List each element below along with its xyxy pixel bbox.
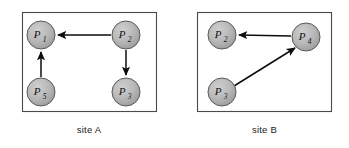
- node-circle: [292, 23, 320, 51]
- node-label: P: [118, 85, 126, 97]
- node-circle: [27, 21, 55, 49]
- edge-p4-to-p2: [239, 35, 291, 36]
- node-label: P: [214, 85, 222, 97]
- node-circle: [208, 21, 236, 49]
- node-circle: [112, 21, 140, 49]
- node-subscript: 1: [43, 35, 47, 44]
- node-subscript: 2: [128, 35, 132, 44]
- node-subscript: 3: [223, 92, 228, 101]
- node-circle: [208, 78, 236, 106]
- node-label: P: [298, 30, 306, 42]
- node-label: P: [118, 28, 126, 40]
- node-circle: [112, 78, 140, 106]
- node-a-p5[interactable]: P 5: [27, 78, 55, 106]
- node-subscript: 3: [127, 92, 132, 101]
- node-b-p3[interactable]: P 3: [208, 78, 236, 106]
- node-b-p2[interactable]: P 2: [208, 21, 236, 49]
- node-label: P: [33, 28, 41, 40]
- caption-site-a: site A: [18, 124, 160, 135]
- node-subscript: 5: [43, 92, 47, 101]
- node-subscript: 2: [224, 35, 228, 44]
- node-a-p1[interactable]: P 1: [27, 21, 55, 49]
- node-a-p2[interactable]: P 2: [112, 21, 140, 49]
- caption-site-b: site B: [192, 124, 337, 135]
- node-label: P: [214, 28, 222, 40]
- node-subscript: 4: [308, 37, 312, 46]
- node-b-p4[interactable]: P 4: [292, 23, 320, 51]
- node-a-p3[interactable]: P 3: [112, 78, 140, 106]
- node-label: P: [33, 85, 41, 97]
- node-circle: [27, 78, 55, 106]
